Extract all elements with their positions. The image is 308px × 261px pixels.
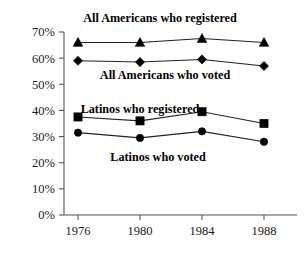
y-axis-tick-label-30%: 30% [32, 130, 55, 144]
series-label-4: Latinos who voted [110, 150, 206, 164]
x-axis-tick-label-1988: 1988 [252, 224, 277, 238]
data-point-circle-1988 [260, 138, 267, 145]
data-point-circle-1980 [136, 134, 143, 141]
line-chart: 0%10%20%30%40%50%60%70% 1976198019841988… [0, 0, 308, 261]
y-axis-tick-label-20%: 20% [32, 156, 55, 170]
y-axis-tick-label-0%: 0% [38, 208, 55, 222]
chart-canvas: 0%10%20%30%40%50%60%70% 1976198019841988… [0, 0, 308, 261]
data-point-square-1980 [136, 117, 144, 125]
y-axis-tick-label-50%: 50% [32, 78, 55, 92]
y-axis-tick-label-40%: 40% [32, 104, 55, 118]
data-point-square-1988 [260, 119, 268, 127]
series-label-2: All Americans who voted [100, 68, 231, 82]
data-point-circle-1984 [198, 128, 205, 135]
data-point-circle-1976 [74, 129, 81, 136]
y-axis-tick-label-70%: 70% [32, 25, 55, 39]
y-axis-tick-label-60%: 60% [32, 52, 55, 66]
x-axis-tick-label-1984: 1984 [190, 224, 216, 238]
series-label-3: Latinos who registered [81, 102, 200, 116]
y-axis-tick-label-10%: 10% [32, 182, 55, 196]
series-label-1: All Americans who registered [83, 11, 237, 25]
x-axis-tick-label-1976: 1976 [66, 224, 91, 238]
x-axis-tick-label-1980: 1980 [128, 224, 153, 238]
